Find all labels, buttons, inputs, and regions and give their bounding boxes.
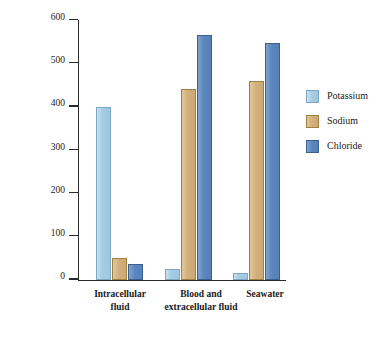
y-axis-tick-label: 600 [51,12,65,22]
plot-area: 0100200300400500600 [78,20,286,281]
x-axis-label-line: Seawater [223,288,307,301]
bar-sodium [181,89,196,279]
chart-legend: PotassiumSodiumChloride [306,90,386,165]
legend-swatch-icon [306,115,319,128]
y-axis-tick-label: 200 [51,185,65,195]
legend-item-chloride[interactable]: Chloride [306,140,386,165]
y-axis-tick: 200 [69,192,78,193]
legend-item-label: Chloride [327,140,362,151]
legend-item-label: Potassium [327,90,368,101]
x-axis-label: Seawater [223,288,307,301]
y-axis-tick: 0 [69,278,78,279]
legend-item-label: Sodium [327,115,358,126]
y-axis-tick-label: 400 [51,98,65,108]
legend-swatch-icon [306,140,319,153]
x-axis-label-line: extracellular fluid [143,301,259,314]
y-axis-tick-label: 300 [51,142,65,152]
y-axis-tick: 500 [69,62,78,63]
legend-item-potassium[interactable]: Potassium [306,90,386,115]
bar-chart: Concentration (milliMoles) 0100200300400… [0,0,386,337]
bar-chloride [265,43,280,280]
legend-swatch-icon [306,90,319,103]
y-axis-tick: 400 [69,105,78,106]
x-axis-line [78,280,286,281]
bar-group [165,20,212,280]
bar-potassium [165,269,180,280]
y-axis-tick-label: 500 [51,55,65,65]
y-axis-tick: 100 [69,235,78,236]
bar-group [96,20,143,280]
bar-sodium [112,258,127,280]
y-axis-tick: 300 [69,149,78,150]
bar-sodium [249,81,264,280]
y-axis-tick-label: 100 [51,228,65,238]
bar-potassium [233,273,248,279]
bar-chloride [128,264,143,279]
legend-item-sodium[interactable]: Sodium [306,115,386,140]
bar-potassium [96,107,111,280]
bar-chloride [197,35,212,279]
y-axis-line [78,20,79,281]
bar-group [233,20,280,280]
y-axis-tick-label: 0 [60,271,65,281]
y-axis-tick: 600 [69,19,78,20]
